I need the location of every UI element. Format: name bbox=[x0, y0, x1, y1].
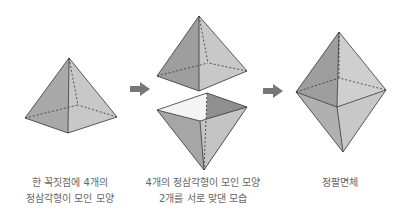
square-pyramid-figure bbox=[25, 58, 117, 133]
bottom-pyramid-figure bbox=[157, 93, 247, 170]
caption-two-pyramids: 4개의 정삼각형이 모인 모양 2개를 서로 맞댄 모습 bbox=[138, 175, 268, 207]
caption-line: 정팔면체 bbox=[300, 175, 380, 191]
top-pyramid-figure bbox=[157, 16, 247, 91]
caption-line: 2개를 서로 맞댄 모습 bbox=[138, 191, 268, 207]
arrow-right-icon bbox=[263, 84, 283, 98]
caption-line: 한 꼭짓점에 4개의 bbox=[10, 175, 130, 191]
caption-square-pyramid: 한 꼭짓점에 4개의 정삼각형이 모인 모양 bbox=[10, 175, 130, 207]
caption-line: 4개의 정삼각형이 모인 모양 bbox=[138, 175, 268, 191]
arrow-right-icon bbox=[130, 82, 150, 96]
caption-octahedron: 정팔면체 bbox=[300, 175, 380, 191]
octahedron-figure bbox=[296, 32, 386, 152]
caption-line: 정삼각형이 모인 모양 bbox=[10, 191, 130, 207]
